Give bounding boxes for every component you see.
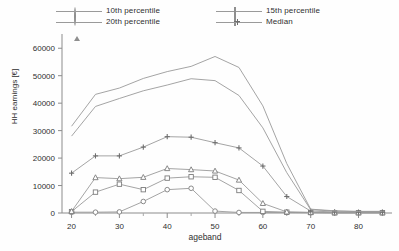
y-tick-label: 30000 xyxy=(33,127,56,136)
plot-area: 0100002000030000400005000060000203040506… xyxy=(0,0,399,251)
y-axis-label: HH earnings [€] xyxy=(10,51,19,143)
y-tick-label: 60000 xyxy=(33,44,56,53)
y-tick-label: 10000 xyxy=(33,182,56,191)
chart-canvas: 0100002000030000400005000060000203040506… xyxy=(0,0,399,251)
y-tick-label: 20000 xyxy=(33,154,56,163)
y-tick-label: 50000 xyxy=(33,72,56,81)
x-tick-label: 60 xyxy=(258,222,267,231)
chart-figure: 10th percentile 20th percentile 15th per… xyxy=(0,0,399,251)
x-tick-label: 70 xyxy=(306,222,315,231)
x-axis-label: ageband xyxy=(150,232,260,242)
series-upper-band-2 xyxy=(72,56,383,211)
x-tick-label: 20 xyxy=(67,222,76,231)
y-tick-label: 40000 xyxy=(33,99,56,108)
x-tick-label: 80 xyxy=(354,222,363,231)
x-tick-label: 40 xyxy=(163,222,172,231)
y-tick-label: 0 xyxy=(51,209,56,218)
series-20th-percentile xyxy=(69,166,385,215)
x-tick-label: 50 xyxy=(211,222,220,231)
x-tick-label: 30 xyxy=(115,222,124,231)
series-median xyxy=(69,134,385,215)
